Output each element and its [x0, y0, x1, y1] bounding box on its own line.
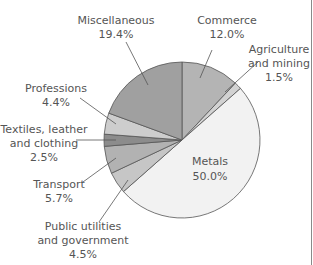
label-transport-name: Transport: [32, 178, 85, 191]
label-commerce-value: 12.0%: [210, 28, 245, 41]
label-public-line1: Public utilities: [45, 220, 122, 233]
label-metals-value: 50.0%: [193, 170, 228, 183]
label-agriculture: Agriculture and mining 1.5%: [248, 43, 310, 84]
label-commerce-name: Commerce: [197, 14, 257, 27]
label-textiles-line2: and clothing: [10, 137, 78, 150]
label-public-value: 4.5%: [69, 248, 97, 261]
label-miscellaneous-name: Miscellaneous: [77, 14, 154, 27]
label-agriculture-line1: Agriculture: [249, 43, 310, 56]
label-metals-name: Metals: [192, 155, 228, 168]
label-textiles-line1: Textiles, leather: [0, 123, 88, 136]
label-professions-value: 4.4%: [42, 96, 70, 109]
right-border-rule: [311, 0, 312, 265]
label-agriculture-line2: and mining: [248, 57, 310, 70]
label-transport-value: 5.7%: [45, 192, 73, 205]
label-professions-name: Professions: [25, 82, 87, 95]
label-textiles: Textiles, leather and clothing 2.5%: [0, 123, 88, 164]
label-public-line2: and government: [37, 234, 129, 247]
label-commerce: Commerce 12.0%: [197, 14, 257, 41]
label-miscellaneous: Miscellaneous 19.4%: [77, 14, 154, 41]
label-miscellaneous-value: 19.4%: [99, 28, 134, 41]
label-professions: Professions 4.4%: [25, 82, 87, 109]
label-textiles-value: 2.5%: [30, 151, 58, 164]
label-transport: Transport 5.7%: [32, 178, 85, 205]
leader-public-utilities: [99, 180, 128, 222]
pie-slices: [104, 62, 260, 218]
label-public-utilities: Public utilities and government 4.5%: [37, 220, 129, 261]
pie-chart: Miscellaneous 19.4% Commerce 12.0% Agric…: [0, 0, 313, 265]
label-agriculture-value: 1.5%: [265, 71, 293, 84]
